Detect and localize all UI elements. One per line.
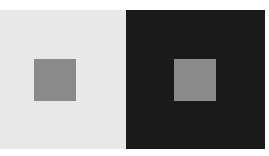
light-background-panel — [0, 10, 126, 149]
gray-square-on-dark — [174, 59, 216, 101]
dark-background-panel — [126, 10, 265, 149]
gray-square-on-light — [34, 59, 76, 101]
